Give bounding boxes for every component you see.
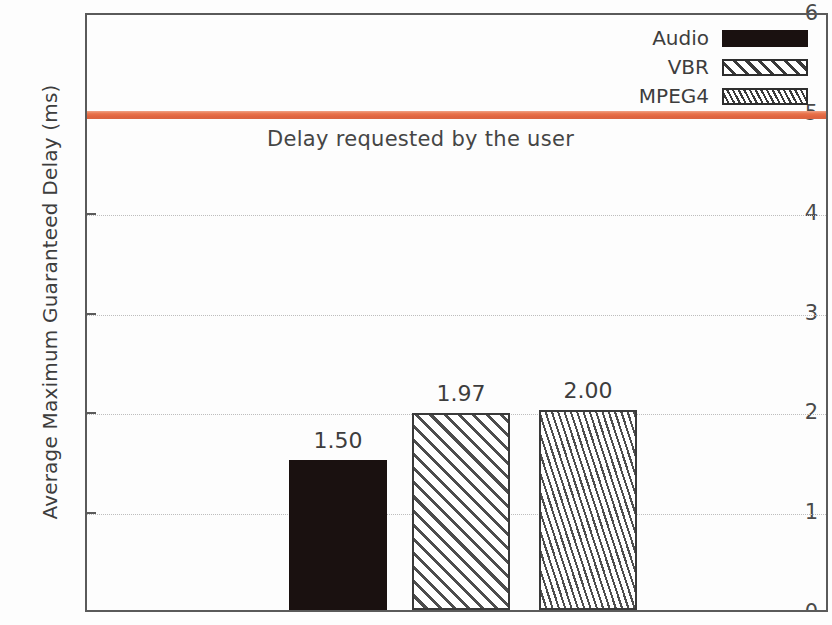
legend-item-vbr: VBR — [639, 54, 808, 80]
legend-item-mpeg4: MPEG4 — [639, 83, 808, 109]
gridline — [87, 315, 826, 316]
legend-label-audio: Audio — [652, 26, 709, 50]
bar-value-label: 1.97 — [437, 381, 486, 406]
bar-audio: 1.50 — [289, 460, 387, 610]
legend-label-vbr: VBR — [668, 55, 709, 79]
legend-item-audio: Audio — [639, 25, 808, 51]
legend-swatch-vbr-icon — [722, 59, 808, 76]
threshold-line — [87, 111, 826, 119]
plot-area: Delay requested by the user 1.501.972.00… — [85, 13, 828, 612]
legend-swatch-mpeg4-icon — [722, 88, 808, 105]
bar-chart-figure: Average Maximum Guaranteed Delay (ms) 65… — [0, 0, 832, 625]
bar-mpeg4: 2.00 — [539, 410, 637, 610]
legend-swatch-audio-icon — [722, 30, 808, 47]
gridline — [87, 215, 826, 216]
bar-value-label: 1.50 — [314, 428, 363, 453]
legend: Audio VBR MPEG4 — [635, 23, 812, 111]
threshold-label: Delay requested by the user — [267, 127, 574, 151]
bar-vbr: 1.97 — [412, 413, 510, 610]
legend-label-mpeg4: MPEG4 — [639, 84, 709, 108]
bar-value-label: 2.00 — [564, 378, 613, 403]
y-axis-title: Average Maximum Guaranteed Delay (ms) — [38, 0, 62, 612]
figure-bottom-margin — [0, 612, 832, 625]
